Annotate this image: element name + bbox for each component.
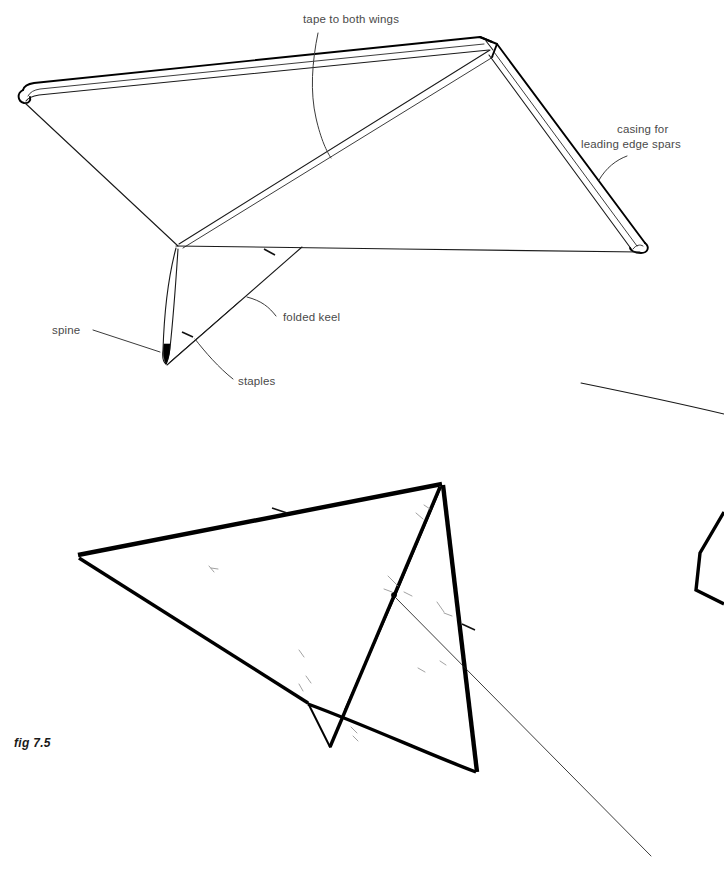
leader-staples [195,339,233,379]
label-staples: staples [238,375,276,387]
right-edge-fragments [581,383,724,604]
upper-folded-keel [167,247,302,365]
figure-canvas: Delta kite assembly — taping wings, keel… [0,0,724,896]
label-casing-line-1: casing for [617,123,668,135]
tape-tick-2 [462,624,475,630]
leader-spine [93,330,160,352]
thin-line-fragment [581,383,724,414]
upper-staple-marks [182,249,275,337]
leader-casing-for-leading-edge-spars [599,156,627,180]
tape-tick-1 [272,508,287,513]
staple-tick-2 [182,332,193,337]
lower-kite-figure [78,484,651,856]
leader-folded-keel [247,297,276,316]
kite-construction-diagram: Delta kite assembly — taping wings, keel… [0,0,724,896]
upper-spine [163,248,178,364]
label-folded-keel: folded keel [283,311,340,323]
bridle-point [391,592,396,597]
staple-tick-1 [264,249,275,255]
label-spine: spine [52,324,80,336]
upper-kite-figure: tape to both wings casing for leading ed… [19,13,681,387]
label-casing-line-2: leading edge spars [581,138,681,150]
label-tape-to-both-wings: tape to both wings [303,13,399,25]
kite-outline-fragment [696,512,724,604]
figure-caption: fig 7.5 [14,736,51,750]
